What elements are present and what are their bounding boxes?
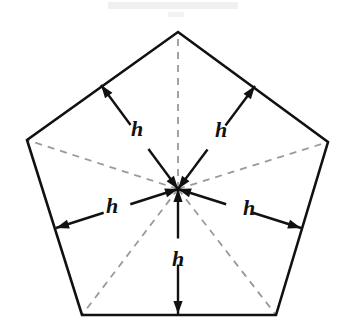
geometry-figure: hhhhh bbox=[0, 0, 350, 335]
figure-background bbox=[0, 0, 350, 335]
apothem-bottom-label: h bbox=[172, 248, 184, 270]
pentagon-diagram-svg bbox=[0, 0, 350, 335]
smudge-dot bbox=[168, 12, 184, 17]
smudge-bar bbox=[108, 2, 238, 9]
apothem-upper-left-label: h bbox=[131, 118, 143, 140]
apothem-right-label: h bbox=[243, 197, 255, 219]
apothem-upper-right-label: h bbox=[215, 119, 227, 141]
apothem-left-label: h bbox=[106, 195, 118, 217]
